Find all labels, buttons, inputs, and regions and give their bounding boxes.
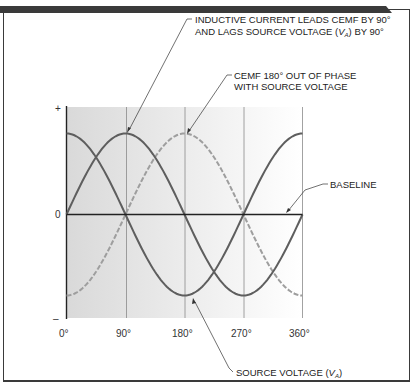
phase-diagram: + 0 – 0° 90° 180° 270° 360° INDUCTIVE CU… (0, 0, 420, 387)
annotation-source-voltage: SOURCE VOLTAGE (VA) (236, 367, 342, 379)
annotation-current-line1: INDUCTIVE CURRENT LEADS CEMF BY 90° (195, 14, 391, 25)
annotation-current-line2: AND LAGS SOURCE VOLTAGE (VA) BY 90° (195, 26, 384, 38)
x-tick-360: 360° (289, 328, 310, 339)
annotation-cemf-line1: CEMF 180° OUT OF PHASE (234, 70, 356, 81)
x-tick-270: 270° (231, 328, 252, 339)
annotation-baseline: BASELINE (330, 179, 376, 190)
y-tick-plus: + (55, 103, 61, 114)
x-tick-90: 90° (116, 328, 131, 339)
x-tick-180: 180° (172, 328, 193, 339)
x-tick-0: 0° (59, 328, 69, 339)
y-tick-zero: 0 (55, 209, 61, 220)
y-tick-minus: – (53, 313, 59, 324)
annotation-cemf-line2: WITH SOURCE VOLTAGE (234, 81, 348, 92)
